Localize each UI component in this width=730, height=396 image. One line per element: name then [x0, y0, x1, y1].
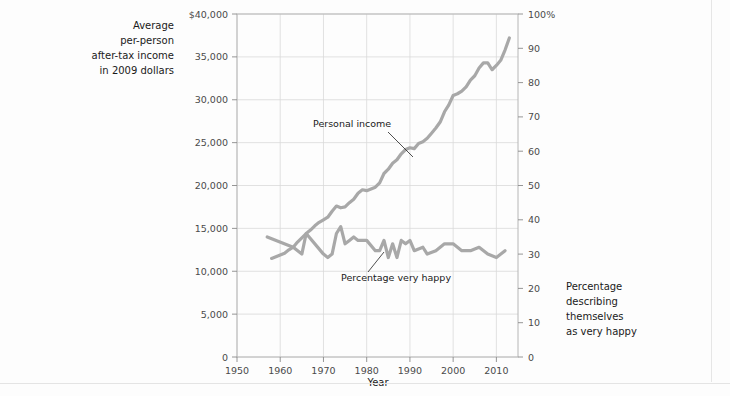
left-tick-label: 10,000: [195, 266, 228, 277]
x-tick-label: 2000: [441, 365, 465, 376]
right-tick-label: 60: [528, 146, 540, 157]
right-tick-label: 0: [528, 352, 534, 363]
left-tick-label: $40,000: [189, 9, 228, 20]
series-line-percentage-very-happy: [267, 227, 505, 258]
right-tick-label: 70: [528, 111, 540, 122]
left-axis-title-line-1: Average: [133, 20, 174, 31]
page-border-bottom: [0, 383, 730, 384]
x-tick-label: 1990: [398, 365, 422, 376]
left-tick-label: 15,000: [195, 223, 228, 234]
x-tick-label: 2010: [484, 365, 508, 376]
right-tick-label: 40: [528, 214, 540, 225]
left-axis-title-line-3: after-tax income: [92, 50, 174, 61]
series-annotation-label-1: Personal income: [313, 118, 391, 129]
x-tick-label: 1960: [268, 365, 292, 376]
left-tick-label: 20,000: [195, 180, 228, 191]
x-tick-label: 1970: [311, 365, 335, 376]
chart-page: 05,00010,00015,00020,00025,00030,00035,0…: [0, 0, 730, 396]
series-annotation-label-2: Percentage very happy: [341, 272, 451, 283]
right-tick-label: 50: [528, 180, 540, 191]
dual-axis-line-chart: 05,00010,00015,00020,00025,00030,00035,0…: [0, 0, 730, 396]
series-line-personal-income: [272, 38, 510, 258]
right-tick-label: 90: [528, 43, 540, 54]
right-axis-title: Percentage describing themselves as very…: [566, 281, 637, 337]
right-tick-label: 100%: [528, 9, 555, 20]
right-axis-title-line-4: as very happy: [566, 326, 637, 337]
right-tick-label: 10: [528, 317, 540, 328]
left-tick-label: 30,000: [195, 94, 228, 105]
right-axis-ticks: 0102030405060708090100%: [518, 9, 555, 363]
right-tick-label: 80: [528, 77, 540, 88]
left-tick-label: 25,000: [195, 137, 228, 148]
left-axis-title: Average per-person after-tax income in 2…: [92, 20, 174, 76]
x-tick-label: 1980: [355, 365, 379, 376]
right-tick-label: 30: [528, 249, 540, 260]
left-axis-ticks: 05,00010,00015,00020,00025,00030,00035,0…: [189, 9, 237, 363]
right-tick-label: 20: [528, 283, 540, 294]
left-tick-label: 35,000: [195, 51, 228, 62]
right-axis-title-line-1: Percentage: [566, 281, 622, 292]
left-tick-label: 0: [222, 352, 228, 363]
page-border-right: [711, 0, 712, 382]
x-axis-ticks: 1950196019701980199020002010: [225, 357, 509, 376]
right-axis-title-line-3: themselves: [566, 311, 624, 322]
left-axis-title-line-2: per-person: [120, 35, 174, 46]
left-tick-label: 5,000: [201, 309, 228, 320]
series-annotation-leader-2: [368, 252, 384, 272]
x-tick-label: 1950: [225, 365, 249, 376]
left-axis-title-line-4: in 2009 dollars: [100, 65, 174, 76]
right-axis-title-line-2: describing: [566, 296, 618, 307]
series-group: [267, 38, 509, 258]
